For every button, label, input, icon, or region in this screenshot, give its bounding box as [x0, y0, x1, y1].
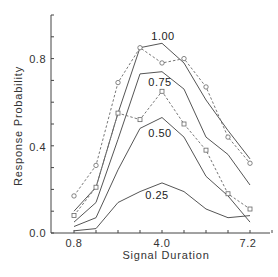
square-marker-icon	[182, 122, 186, 126]
square-marker-icon	[248, 207, 252, 211]
curve-label-0-75: 0.75	[148, 76, 171, 88]
circle-marker-icon	[94, 163, 98, 167]
circle-marker-icon	[226, 135, 230, 139]
circle-marker-icon	[160, 61, 164, 65]
curve-label-1-00: 1.00	[151, 30, 174, 42]
x-tick-label: 7.2	[240, 237, 257, 249]
circle-marker-icon	[182, 56, 186, 60]
x-tick-label: 4.0	[154, 237, 171, 249]
y-tick-label: 0.0	[29, 227, 46, 239]
curve-label-0-50: 0.50	[148, 127, 171, 139]
square-marker-icon	[116, 111, 120, 115]
square-marker-icon	[72, 214, 76, 218]
square-marker-icon	[138, 118, 142, 122]
y-tick-label: 0.4	[29, 141, 46, 153]
square-marker-icon	[226, 192, 230, 196]
square-marker-icon	[204, 148, 208, 152]
circle-marker-icon	[248, 161, 252, 165]
y-tick-label: 0.8	[29, 53, 46, 65]
circle-marker-icon	[72, 194, 76, 198]
y-axis-label: Response Probability	[12, 66, 24, 186]
line-chart: 0.0 0.4 0.8 0.8 4.0 7.2 Signal Duration …	[0, 0, 278, 277]
x-tick-label: 0.8	[66, 237, 83, 249]
circle-marker-icon	[116, 80, 120, 84]
square-marker-icon	[160, 89, 164, 93]
x-axis-label: Signal Duration	[122, 249, 209, 261]
curve-label-0-25: 0.25	[145, 189, 168, 201]
circle-marker-icon	[138, 46, 142, 50]
square-marker-icon	[94, 185, 98, 189]
circle-marker-icon	[204, 85, 208, 89]
